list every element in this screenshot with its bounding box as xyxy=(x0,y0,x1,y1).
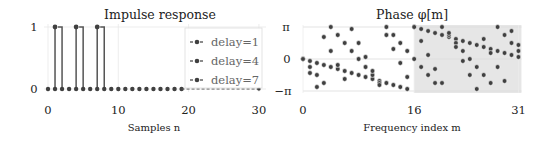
marker xyxy=(109,87,113,91)
phase-point xyxy=(495,49,500,54)
left-x-axis-label: Samples n xyxy=(128,122,181,133)
phase-point xyxy=(509,53,514,58)
phase-point xyxy=(509,29,514,34)
y-tick-pi: π xyxy=(282,20,290,34)
phase-point xyxy=(419,65,424,70)
phase-point xyxy=(447,31,452,36)
phase-point xyxy=(433,67,438,72)
phase-point xyxy=(481,37,486,42)
phase-point xyxy=(370,69,375,74)
phase-point xyxy=(315,85,320,90)
phase-point xyxy=(495,25,500,30)
figure: Impulse response100102030Samples ndelay=… xyxy=(0,0,549,141)
phase-point xyxy=(405,49,410,54)
phase-point xyxy=(398,61,403,66)
right-chart-title: Phase φ[m] xyxy=(376,7,448,22)
phase-point xyxy=(363,65,368,70)
phase-point xyxy=(328,65,333,70)
phase-point xyxy=(321,63,326,68)
marker xyxy=(88,87,92,91)
phase-point xyxy=(335,63,340,68)
marker xyxy=(102,87,106,91)
marker xyxy=(172,87,176,91)
phase-point xyxy=(308,59,313,64)
phase-point xyxy=(342,77,347,82)
phase-point xyxy=(474,87,479,92)
phase-point xyxy=(321,81,326,86)
phase-point xyxy=(349,27,354,32)
legend-entry: delay=4 xyxy=(211,54,259,68)
phase-point xyxy=(495,65,500,70)
x-tick: 30 xyxy=(252,103,267,117)
phase-point xyxy=(391,33,396,38)
marker xyxy=(81,87,85,91)
phase-point xyxy=(356,57,361,62)
phase-point xyxy=(426,53,431,58)
phase-point xyxy=(342,69,347,74)
phase-point xyxy=(488,51,493,56)
phase-point xyxy=(454,45,459,50)
impulse-response-plot: Impulse response100102030Samples ndelay=… xyxy=(30,7,266,133)
marker xyxy=(60,87,64,91)
y-tick-0: 0 xyxy=(30,82,37,96)
x-tick: 0 xyxy=(299,103,306,117)
phase-point xyxy=(509,41,514,46)
phase-point xyxy=(433,81,438,86)
phase-point xyxy=(426,29,431,34)
phase-point xyxy=(440,81,445,86)
phase-point xyxy=(356,41,361,46)
phase-point xyxy=(308,65,313,70)
phase-point xyxy=(328,25,333,30)
phase-point xyxy=(391,47,396,52)
phase-point xyxy=(474,43,479,48)
phase-point xyxy=(398,41,403,46)
legend-entry: delay=7 xyxy=(211,73,259,87)
marker xyxy=(137,87,141,91)
phase-point xyxy=(467,73,472,78)
marker xyxy=(67,87,71,91)
phase-plot: Phase φ[m]π0−π01631Frequency index m xyxy=(274,7,525,133)
phase-point xyxy=(460,59,465,64)
phase-point xyxy=(356,73,361,78)
phase-point xyxy=(440,25,445,30)
phase-point xyxy=(460,39,465,44)
phase-point xyxy=(405,87,410,92)
impulse-marker xyxy=(95,25,100,30)
y-tick-zero: 0 xyxy=(283,52,290,66)
phase-point xyxy=(384,81,389,86)
phase-point xyxy=(502,51,507,56)
marker xyxy=(74,87,78,91)
y-tick-1: 1 xyxy=(30,20,37,34)
right-x-axis-label: Frequency index m xyxy=(363,122,461,133)
phase-point xyxy=(426,73,431,78)
phase-point xyxy=(349,49,354,54)
phase-point xyxy=(419,27,424,32)
phase-point xyxy=(405,75,410,80)
marker xyxy=(130,87,134,91)
phase-point xyxy=(481,45,486,50)
marker xyxy=(151,87,155,91)
x-tick: 0 xyxy=(44,103,51,117)
phase-point xyxy=(377,83,382,88)
marker xyxy=(123,87,127,91)
phase-point xyxy=(516,43,521,48)
phase-point xyxy=(363,75,368,80)
legend-entry: delay=1 xyxy=(211,35,259,49)
phase-point xyxy=(481,73,486,78)
phase-point xyxy=(502,79,507,84)
phase-point xyxy=(460,49,465,54)
phase-point xyxy=(474,65,479,70)
legend: delay=1delay=4delay=7 xyxy=(185,28,262,88)
phase-point xyxy=(349,71,354,76)
phase-point xyxy=(412,57,417,62)
impulse-marker xyxy=(74,25,79,30)
phase-point xyxy=(488,81,493,86)
marker xyxy=(165,87,169,91)
marker xyxy=(53,87,57,91)
phase-point xyxy=(516,55,521,60)
marker xyxy=(144,87,148,91)
x-tick: 10 xyxy=(111,103,126,117)
phase-point xyxy=(342,41,347,46)
marker xyxy=(46,87,50,91)
x-tick: 16 xyxy=(407,103,422,117)
